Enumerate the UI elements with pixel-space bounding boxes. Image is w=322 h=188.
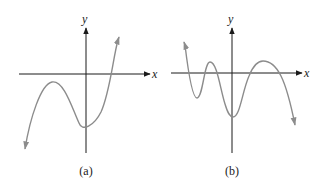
caption-a: (a)	[79, 164, 92, 178]
x-axis-label: x	[151, 67, 158, 81]
figure: y x (a) y x (b)	[0, 0, 322, 188]
panel-b: y x (b)	[171, 12, 310, 178]
curve-a-start-arrow	[118, 37, 119, 40]
caption-b: (b)	[225, 164, 239, 178]
y-axis-label: y	[227, 12, 234, 26]
panel-a: y x (a)	[19, 12, 158, 178]
y-axis-label: y	[81, 12, 88, 26]
curve-a	[25, 40, 118, 149]
x-axis-label: x	[303, 66, 310, 80]
curve-b	[185, 45, 295, 125]
curve-b-start-arrow	[184, 42, 185, 45]
